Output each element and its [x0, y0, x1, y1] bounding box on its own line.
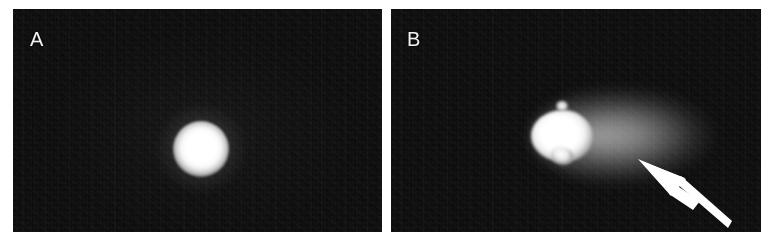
panel-label-b: B: [407, 29, 421, 49]
bright-core-nub: [556, 101, 568, 111]
panel-label-a: A: [30, 29, 44, 49]
bright-spot: [173, 121, 229, 177]
diffuse-plume-outer: [576, 97, 726, 175]
figure-container: A B: [0, 0, 775, 251]
panel-a: A: [13, 9, 382, 232]
panel-b: B: [391, 9, 761, 232]
